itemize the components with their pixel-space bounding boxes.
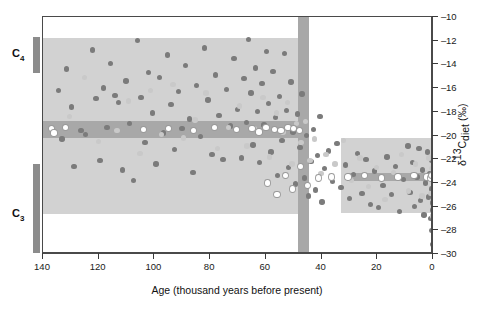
data-point bbox=[97, 158, 102, 163]
data-point bbox=[357, 155, 362, 160]
x-axis-tick bbox=[432, 253, 433, 259]
data-point bbox=[153, 161, 158, 166]
data-point bbox=[405, 143, 410, 148]
data-point bbox=[239, 155, 244, 160]
data-point bbox=[329, 174, 334, 179]
data-point bbox=[237, 103, 242, 108]
y-axis-tick-label: –28 bbox=[441, 224, 456, 235]
data-point bbox=[263, 125, 268, 130]
data-point bbox=[205, 97, 210, 102]
data-point bbox=[64, 66, 69, 71]
x-axis-tick-label: 60 bbox=[260, 261, 271, 272]
data-point bbox=[114, 128, 119, 133]
data-point bbox=[315, 153, 320, 158]
data-point bbox=[393, 164, 398, 169]
y-axis-tick bbox=[432, 87, 438, 88]
data-point bbox=[330, 179, 335, 184]
data-point bbox=[138, 95, 143, 100]
y-axis-tick bbox=[432, 16, 438, 17]
x-axis-tick bbox=[321, 253, 322, 259]
data-point bbox=[267, 154, 272, 159]
y-axis-tick bbox=[432, 63, 438, 64]
x-axis-tick-label: 140 bbox=[34, 261, 50, 272]
x-axis-tick-label: 120 bbox=[90, 261, 106, 272]
y-axis-tick bbox=[432, 40, 438, 41]
data-point bbox=[299, 91, 304, 96]
data-point bbox=[181, 135, 186, 140]
plot-area bbox=[42, 16, 432, 253]
data-point bbox=[305, 183, 310, 188]
x-axis-tick bbox=[209, 253, 210, 259]
data-point bbox=[71, 164, 76, 169]
data-point bbox=[345, 174, 350, 179]
data-point bbox=[397, 209, 402, 214]
data-point bbox=[123, 78, 128, 83]
data-point bbox=[303, 119, 308, 124]
data-point bbox=[298, 140, 303, 145]
data-point bbox=[104, 125, 109, 130]
data-point bbox=[419, 193, 424, 198]
data-point bbox=[82, 75, 87, 80]
data-point bbox=[216, 113, 221, 118]
data-point bbox=[179, 126, 184, 131]
data-point bbox=[226, 125, 231, 130]
data-point bbox=[259, 81, 264, 86]
data-point bbox=[425, 149, 430, 154]
data-point bbox=[319, 199, 324, 204]
data-point bbox=[423, 180, 428, 185]
carbon-symbol: C bbox=[456, 141, 468, 149]
data-point bbox=[220, 157, 225, 162]
data-point bbox=[420, 167, 425, 172]
y-axis-tick-label: –30 bbox=[441, 248, 456, 259]
data-point bbox=[260, 95, 265, 100]
data-point bbox=[166, 126, 171, 131]
data-point bbox=[307, 158, 312, 163]
y-axis-tick-label: –22 bbox=[441, 153, 456, 164]
data-point bbox=[244, 143, 249, 148]
data-point bbox=[289, 161, 294, 166]
x-axis-tick-label: 20 bbox=[371, 261, 382, 272]
data-point bbox=[56, 88, 61, 93]
data-point bbox=[382, 197, 387, 202]
data-point bbox=[83, 132, 88, 137]
data-point bbox=[311, 127, 316, 132]
data-point bbox=[253, 65, 258, 70]
y-axis-tick bbox=[432, 111, 438, 112]
data-point bbox=[142, 140, 147, 145]
data-point bbox=[395, 174, 400, 179]
data-point bbox=[421, 212, 426, 217]
data-point bbox=[231, 56, 236, 61]
data-point bbox=[265, 180, 270, 185]
data-point bbox=[264, 49, 269, 54]
data-point bbox=[241, 76, 246, 81]
data-point bbox=[90, 47, 95, 52]
data-point bbox=[112, 93, 117, 98]
y-axis-tick-label: –10 bbox=[441, 11, 456, 22]
y-axis-tick-label: –14 bbox=[441, 58, 456, 69]
x-axis-tick-label: 40 bbox=[315, 261, 326, 272]
data-point bbox=[120, 167, 125, 172]
x-axis-tick-label: 80 bbox=[204, 261, 215, 272]
y-axis-tick-label: –26 bbox=[441, 200, 456, 211]
c4-label-text: C bbox=[12, 47, 20, 59]
data-point bbox=[150, 110, 155, 115]
y-axis-tick-label: –20 bbox=[441, 129, 456, 140]
data-point bbox=[59, 136, 64, 141]
data-point bbox=[51, 130, 56, 135]
data-point bbox=[323, 152, 328, 157]
x-axis-tick bbox=[42, 253, 43, 259]
data-point bbox=[343, 162, 348, 167]
data-point bbox=[406, 188, 411, 193]
data-point bbox=[270, 69, 275, 74]
c4-label: C4 bbox=[12, 47, 24, 62]
data-point bbox=[334, 141, 339, 146]
data-point bbox=[290, 186, 295, 191]
data-point bbox=[168, 102, 173, 107]
delta-symbol: δ bbox=[456, 160, 468, 166]
x-axis-line bbox=[42, 253, 432, 254]
data-point bbox=[313, 187, 318, 192]
data-point bbox=[213, 72, 218, 77]
y-axis-tick bbox=[432, 158, 438, 159]
x-axis-tick-label: 100 bbox=[145, 261, 161, 272]
data-point bbox=[317, 114, 322, 119]
